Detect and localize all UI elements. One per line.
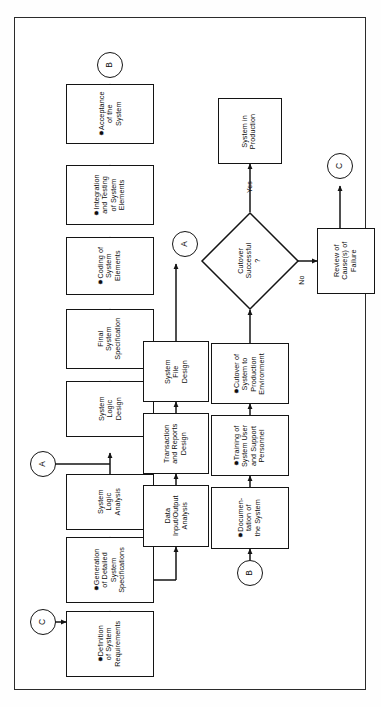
edge-label-no: No (292, 266, 314, 294)
node-system-file-design[interactable]: System File Design (143, 341, 209, 402)
connector-c-exit-right[interactable]: C (327, 153, 353, 179)
flowchart-page: ✹Definition of System Requirements ✹Gene… (0, 0, 381, 707)
node-data-input-output-analysis[interactable]: Data Input/Output Analysis (143, 485, 209, 547)
connector-b-exit-top[interactable]: B (97, 52, 123, 78)
node-label: Transaction and Reports Design (163, 423, 188, 463)
node-label: ✹Documen- tation of the System (237, 498, 262, 538)
node-label: ✹Definition of System Requirements (97, 621, 122, 667)
node-label: ✹Training of System User and Support Per… (233, 424, 267, 466)
node-final-system-specification[interactable]: Final System Specification (66, 309, 154, 369)
node-coding-of-system-elements[interactable]: ✹Coding of System Elements (66, 237, 154, 295)
node-definition-of-system-requirements[interactable]: ✹Definition of System Requirements (66, 611, 154, 677)
node-label: System Logic Analysis (97, 488, 122, 516)
node-label: Final System Specification (97, 318, 122, 360)
node-label: ✹Integration and Testing of System Eleme… (93, 174, 127, 215)
node-integration-and-testing-of-system-elements[interactable]: ✹Integration and Testing of System Eleme… (66, 165, 154, 225)
node-label: System in Production (242, 113, 259, 148)
node-system-logic-design[interactable]: System Logic Design (66, 381, 154, 437)
node-label: Data Input/Output Analysis (163, 496, 188, 537)
node-system-logic-analysis[interactable]: System Logic Analysis (66, 474, 154, 530)
node-review-of-causes-of-failure[interactable]: Review of Cause(s) of Failure (317, 228, 375, 294)
node-label: Review of Cause(s) of Failure (333, 242, 358, 280)
edge-label-yes: Yes (239, 170, 261, 204)
connector-a-exit[interactable]: A (172, 231, 198, 257)
node-cutover-successful-decision[interactable]: Cutover Successful ? (202, 213, 298, 309)
connector-b-entry-bottom[interactable]: B (237, 560, 263, 586)
node-acceptance-of-the-system[interactable]: ✹Acceptance of the System (66, 84, 154, 144)
node-label: System File Design (163, 359, 188, 384)
node-system-in-production[interactable]: System in Production (218, 98, 282, 164)
node-transaction-and-reports-design[interactable]: Transaction and Reports Design (143, 413, 209, 474)
node-label: ✹Generation of Detailed System Specifica… (93, 547, 127, 593)
node-documentation-of-the-system[interactable]: ✹Documen- tation of the System (211, 487, 289, 549)
node-label: ✹Acceptance of the System (97, 92, 122, 137)
node-cutover-of-system-to-production-environment[interactable]: ✹Cutover of System to Production Environ… (211, 343, 289, 404)
node-label: ✹Coding of System Elements (97, 247, 122, 285)
connector-c-entry[interactable]: C (30, 609, 56, 635)
node-training-of-system-user-and-support-personnel[interactable]: ✹Training of System User and Support Per… (211, 415, 289, 476)
connector-a-entry-left[interactable]: A (30, 451, 56, 477)
node-label: ✹Cutover of System to Production Environ… (233, 353, 267, 394)
node-generation-of-detailed-system-specifications[interactable]: ✹Generation of Detailed System Specifica… (66, 537, 154, 603)
node-label: System Logic Design (97, 397, 122, 422)
